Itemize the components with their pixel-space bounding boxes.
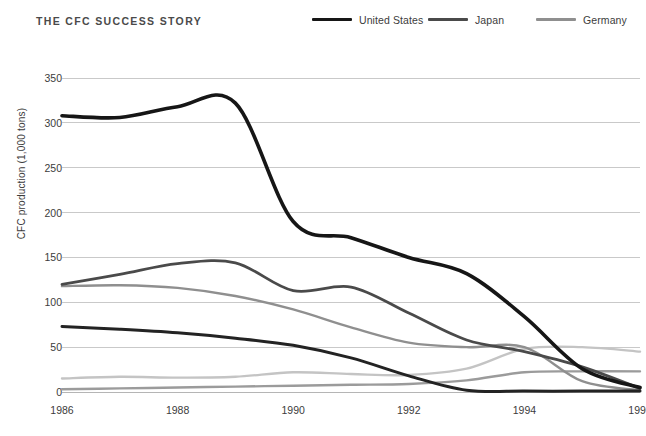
series-line-united-states bbox=[62, 95, 640, 388]
plot-area: CFC production (1,000 tons) 050100150200… bbox=[0, 0, 646, 436]
chart-page: THE CFC SUCCESS STORY United StatesJapan… bbox=[0, 0, 646, 436]
series-line-japan bbox=[62, 261, 640, 389]
line-chart-canvas bbox=[0, 0, 646, 436]
